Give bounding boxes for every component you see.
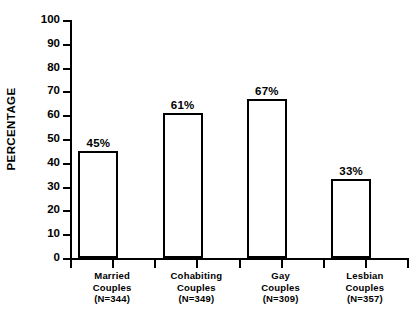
x-axis-tick-mark: [365, 258, 367, 268]
y-axis-tick-label: 80: [47, 61, 60, 74]
bar[interactable]: 33%: [331, 179, 371, 258]
x-axis-tick-mark: [281, 258, 283, 268]
bar-value-label: 33%: [339, 165, 363, 177]
y-axis-tick-label: 40: [47, 156, 60, 169]
y-axis-tick-label: 90: [47, 37, 60, 50]
y-axis-tick-mark: [63, 20, 70, 22]
bar-value-label: 61%: [171, 99, 195, 111]
bar-value-label: 45%: [86, 137, 110, 149]
category-label-line: Couples: [312, 282, 413, 294]
y-axis-tick-mark: [63, 68, 70, 70]
y-axis-tick-mark: [63, 91, 70, 93]
bar[interactable]: 45%: [78, 151, 118, 258]
y-axis-tick-mark: [63, 163, 70, 165]
bar-value-label: 67%: [255, 85, 279, 97]
x-axis-category-label: LesbianCouples(N=357): [312, 270, 413, 305]
category-label-line: Lesbian: [312, 270, 413, 282]
x-axis-tick-mark: [196, 258, 198, 268]
y-axis-title-text: PERCENTAGE: [5, 87, 17, 170]
y-axis-tick-label: 100: [41, 13, 60, 26]
y-axis-title: PERCENTAGE: [0, 0, 22, 258]
y-axis-tick-mark: [63, 115, 70, 117]
category-label-line: (N=357): [312, 293, 413, 305]
plot-area: 45%61%67%33%: [70, 20, 407, 258]
x-axis-tick-mark: [239, 258, 241, 268]
y-axis-tick-label: 20: [47, 203, 60, 216]
y-axis-tick-mark: [63, 187, 70, 189]
x-axis-tick-mark: [323, 258, 325, 268]
bar[interactable]: 61%: [163, 113, 203, 258]
y-axis-tick-mark: [63, 234, 70, 236]
y-axis-tick-label: 30: [47, 180, 60, 193]
y-axis-tick-label: 60: [47, 108, 60, 121]
bar-chart: PERCENTAGE 1009080706050403020100 45%61%…: [0, 0, 413, 318]
y-axis-tick-label: 70: [47, 84, 60, 97]
y-axis-tick-mark: [63, 139, 70, 141]
y-axis-tick-mark: [63, 258, 70, 260]
x-axis-tick-mark: [112, 258, 114, 268]
y-axis-tick-label: 50: [47, 132, 60, 145]
x-axis-tick-mark: [407, 258, 409, 268]
y-axis-tick-label: 0: [54, 251, 60, 264]
y-axis-tick-label: 10: [47, 227, 60, 240]
x-axis-tick-mark: [70, 258, 72, 268]
x-axis-tick-mark: [154, 258, 156, 268]
bar[interactable]: 67%: [247, 99, 287, 258]
y-axis-tick-mark: [63, 210, 70, 212]
y-axis-tick-mark: [63, 44, 70, 46]
